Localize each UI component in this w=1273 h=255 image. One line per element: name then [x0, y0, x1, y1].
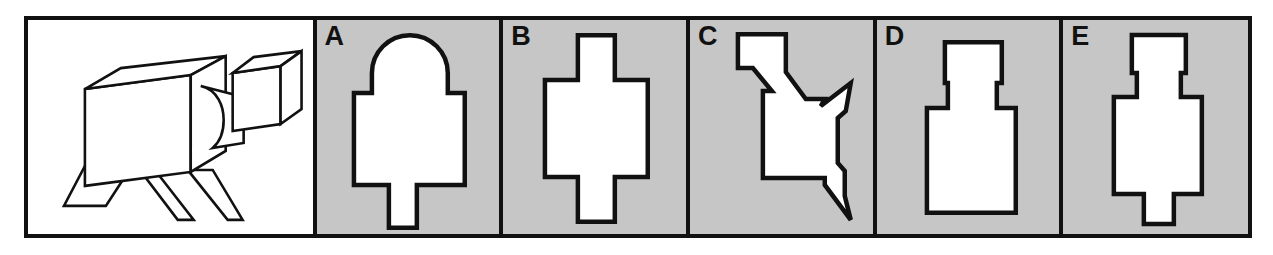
option-shape-d [877, 20, 1060, 234]
option-panel-a[interactable]: A [317, 20, 504, 234]
option-panel-d[interactable]: D [877, 20, 1064, 234]
figure-page: A B C D E [0, 0, 1273, 255]
option-shape-a [317, 20, 500, 234]
stimulus-block-figure-drawing [28, 20, 313, 234]
figure-frame: A B C D E [24, 16, 1252, 238]
option-panel-b[interactable]: B [503, 20, 690, 234]
option-shape-e [1063, 20, 1248, 234]
stimulus-panel[interactable] [28, 20, 317, 234]
option-shape-b [503, 20, 686, 234]
option-panel-e[interactable]: E [1063, 20, 1248, 234]
option-panel-c[interactable]: C [690, 20, 877, 234]
option-shape-c [690, 20, 873, 234]
